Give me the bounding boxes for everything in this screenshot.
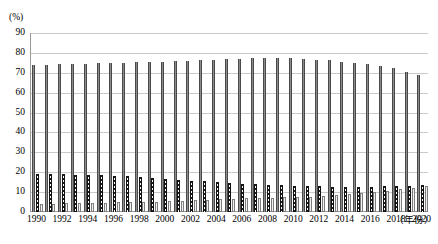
bar-group-2006: [238, 33, 248, 212]
bar-group-1999: [148, 33, 158, 212]
bar-2019-series1: [408, 186, 411, 212]
bar-1996-series1: [113, 176, 116, 212]
bar-1993-series2: [78, 203, 81, 212]
bar-2002-series1: [190, 181, 193, 212]
y-axis-tick-label: 40: [4, 127, 25, 137]
bar-group-2008: [263, 33, 273, 212]
bar-1996-series0: [109, 63, 112, 212]
bar-group-2020: [417, 33, 427, 212]
bar-2004-series0: [212, 60, 215, 212]
bar-2017-series2: [386, 191, 389, 212]
bar-2010-series0: [289, 58, 292, 212]
bar-2003-series1: [203, 181, 206, 212]
bar-1994-series1: [87, 175, 90, 212]
bar-2014-series2: [348, 194, 351, 212]
bar-1991-series0: [45, 65, 48, 212]
bar-2011-series1: [306, 186, 309, 212]
bar-group-2012: [315, 33, 325, 212]
bar-1991-series2: [52, 204, 55, 212]
y-axis-tick-label: 90: [4, 28, 25, 38]
bar-group-2013: [328, 33, 338, 212]
bar-group-1995: [97, 33, 107, 212]
bar-group-2015: [353, 33, 363, 212]
y-axis-tick-label: 50: [4, 108, 25, 118]
bar-1990-series2: [40, 204, 43, 212]
bar-group-1994: [84, 33, 94, 212]
bar-1999-series0: [148, 62, 151, 212]
bar-group-2014: [340, 33, 350, 212]
bar-2010-series2: [296, 197, 299, 212]
bar-1990-series1: [36, 174, 39, 212]
bar-2001-series0: [174, 61, 177, 212]
bar-2012-series1: [318, 186, 321, 212]
bar-2020-series0: [417, 75, 420, 212]
chart-container: (%) 0102030405060708090 （年份） 19901992199…: [0, 0, 438, 244]
bar-2006-series2: [245, 198, 248, 212]
bar-1999-series2: [155, 202, 158, 212]
bar-group-2016: [366, 33, 376, 212]
bar-group-2019: [405, 33, 415, 212]
y-axis-tick-label: 70: [4, 68, 25, 78]
bar-2020-series1: [421, 185, 424, 212]
bar-group-1992: [58, 33, 68, 212]
bar-2007-series1: [254, 184, 257, 212]
bar-2000-series0: [161, 62, 164, 212]
bar-2016-series1: [370, 187, 373, 212]
bar-2005-series2: [232, 199, 235, 212]
bar-1991-series1: [49, 174, 52, 212]
bar-2016-series2: [373, 192, 376, 212]
bar-1994-series2: [91, 203, 94, 212]
bar-1997-series1: [126, 176, 129, 212]
bar-2000-series1: [164, 179, 167, 212]
bar-1998-series0: [135, 62, 138, 212]
bar-2008-series0: [263, 58, 266, 212]
bar-2000-series2: [168, 201, 171, 212]
bar-1995-series0: [97, 63, 100, 212]
bar-group-1996: [109, 33, 119, 212]
y-axis-tick-label: 30: [4, 147, 25, 157]
bar-group-2001: [174, 33, 184, 212]
bar-2008-series1: [267, 185, 270, 212]
bar-1992-series2: [65, 203, 68, 212]
bar-group-2010: [289, 33, 299, 212]
bar-1997-series0: [122, 63, 125, 212]
bar-2018-series0: [392, 68, 395, 212]
bar-2009-series0: [276, 58, 279, 212]
y-axis-tick-label: 10: [4, 187, 25, 197]
bar-2003-series0: [199, 60, 202, 212]
y-axis-tick-label: 20: [4, 167, 25, 177]
bar-group-2011: [302, 33, 312, 212]
bar-2011-series0: [302, 59, 305, 212]
bar-group-1993: [71, 33, 81, 212]
bar-2002-series2: [194, 200, 197, 212]
bar-1998-series2: [142, 202, 145, 212]
bar-group-2009: [276, 33, 286, 212]
y-axis-tick-label: 80: [4, 48, 25, 58]
bar-1990-series0: [32, 65, 35, 212]
bar-group-2005: [225, 33, 235, 212]
bar-2005-series0: [225, 59, 228, 212]
bar-2007-series2: [258, 198, 261, 212]
bar-group-2002: [186, 33, 196, 212]
y-axis-tick-label: 60: [4, 88, 25, 98]
bar-2006-series0: [238, 59, 241, 212]
bar-2005-series1: [228, 183, 231, 212]
bar-group-2004: [212, 33, 222, 212]
x-axis-tick-group: （年份） 19901992199419961998200020022004200…: [0, 214, 438, 230]
bar-2018-series2: [399, 189, 402, 212]
bar-2013-series2: [335, 195, 338, 212]
bar-group-1990: [32, 33, 42, 212]
bar-2014-series1: [344, 187, 347, 212]
bar-2014-series0: [340, 62, 343, 212]
bar-1994-series0: [84, 64, 87, 212]
bar-2017-series1: [383, 186, 386, 212]
bar-2013-series0: [328, 60, 331, 212]
bar-2008-series2: [271, 198, 274, 212]
bar-group-1997: [122, 33, 132, 212]
bar-2015-series2: [360, 193, 363, 212]
bar-2003-series2: [206, 200, 209, 212]
bar-1998-series1: [139, 177, 142, 212]
bar-group-2003: [199, 33, 209, 212]
bar-2015-series1: [357, 187, 360, 212]
x-axis-tick-label: 2020: [407, 214, 437, 225]
